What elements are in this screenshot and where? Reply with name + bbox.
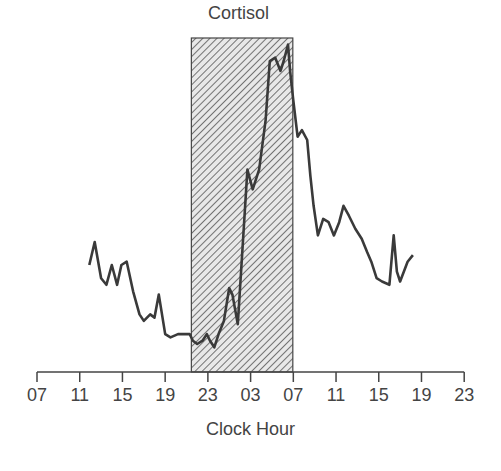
x-tick-label: 11 xyxy=(327,385,346,406)
x-tick-label: 23 xyxy=(454,385,474,406)
x-tick-label: 23 xyxy=(198,385,218,406)
x-tick-label: 07 xyxy=(283,385,303,406)
x-tick-label: 19 xyxy=(411,385,431,406)
x-tick-label: 15 xyxy=(369,385,389,406)
x-tick-label: 03 xyxy=(241,385,261,406)
x-axis xyxy=(37,372,464,382)
sleep-shaded-region xyxy=(191,38,292,372)
x-tick-label: 15 xyxy=(112,385,132,406)
x-tick-label: 19 xyxy=(155,385,175,406)
x-tick-label: 11 xyxy=(70,385,89,406)
x-tick-label: 07 xyxy=(27,385,47,406)
x-axis-label: Clock Hour xyxy=(0,419,501,440)
